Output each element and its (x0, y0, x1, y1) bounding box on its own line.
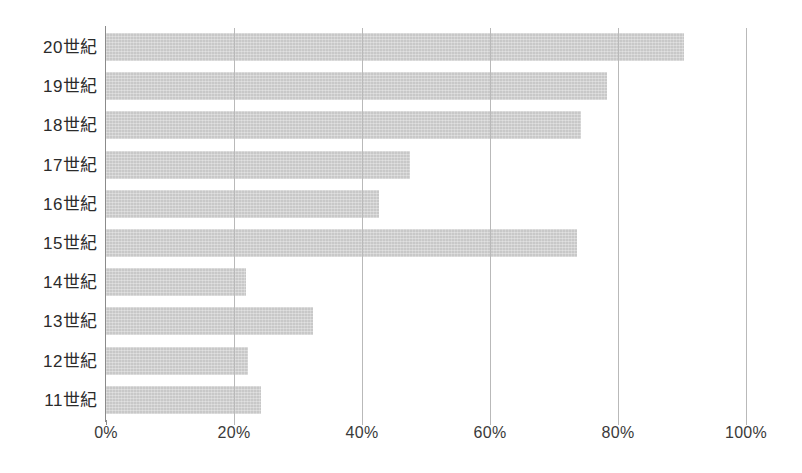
y-axis-label-17世紀: 17世紀 (0, 146, 98, 185)
y-axis-line (105, 26, 106, 422)
plot-area (106, 28, 746, 420)
bar-14世紀 (106, 268, 246, 296)
bar-row (106, 146, 746, 185)
bar-17世紀 (106, 151, 410, 179)
bar-chart: 20世紀19世紀18世紀17世紀16世紀15世紀14世紀13世紀12世紀11世紀… (0, 0, 802, 473)
x-axis-label-60%: 60% (474, 424, 507, 442)
y-axis-label-20世紀: 20世紀 (0, 28, 98, 67)
bar-13世紀 (106, 307, 313, 335)
x-axis-label-100%: 100% (725, 424, 767, 442)
bar-row (106, 342, 746, 381)
y-axis-label-13世紀: 13世紀 (0, 302, 98, 341)
bar-row (106, 381, 746, 420)
y-axis-label-19世紀: 19世紀 (0, 67, 98, 106)
y-axis-label-11世紀: 11世紀 (0, 381, 98, 420)
y-axis-label-12世紀: 12世紀 (0, 342, 98, 381)
y-axis-label-16世紀: 16世紀 (0, 185, 98, 224)
gridline-40% (362, 28, 363, 420)
bar-15世紀 (106, 229, 577, 257)
bar-row (106, 28, 746, 67)
bar-11世紀 (106, 386, 261, 414)
y-axis-category-labels: 20世紀19世紀18世紀17世紀16世紀15世紀14世紀13世紀12世紀11世紀 (0, 28, 98, 420)
y-axis-label-18世紀: 18世紀 (0, 106, 98, 145)
bar-18世紀 (106, 111, 581, 139)
x-axis-label-80%: 80% (602, 424, 635, 442)
bar-12世紀 (106, 347, 248, 375)
x-axis-tick-labels: 0%20%40%60%80%100% (0, 424, 802, 454)
bar-row (106, 302, 746, 341)
bar-20世紀 (106, 33, 684, 61)
gridline-80% (618, 28, 619, 420)
bar-16世紀 (106, 190, 379, 218)
bar-row (106, 224, 746, 263)
bar-row (106, 106, 746, 145)
gridline-20% (234, 28, 235, 420)
x-axis-label-40%: 40% (346, 424, 379, 442)
y-axis-label-14世紀: 14世紀 (0, 263, 98, 302)
y-axis-label-15世紀: 15世紀 (0, 224, 98, 263)
x-axis-label-20%: 20% (218, 424, 251, 442)
bar-row (106, 185, 746, 224)
bar-row (106, 67, 746, 106)
bar-19世紀 (106, 72, 607, 100)
bar-row (106, 263, 746, 302)
x-axis-label-0%: 0% (94, 424, 118, 442)
bar-rows (106, 28, 746, 420)
gridline-60% (490, 28, 491, 420)
gridline-100% (746, 28, 747, 420)
